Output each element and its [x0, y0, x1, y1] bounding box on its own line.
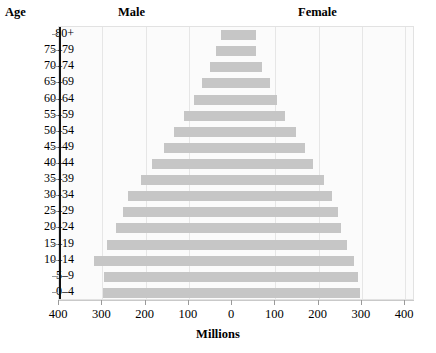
- x-tick-mark: [58, 300, 59, 305]
- age-tick-mark: [52, 50, 58, 51]
- plot-area: [58, 26, 414, 300]
- bar-row: [59, 159, 413, 169]
- female-bar: [232, 191, 332, 201]
- age-tick-mark: [52, 260, 58, 261]
- female-bar: [232, 272, 358, 282]
- bar-row: [59, 191, 413, 201]
- female-bar: [232, 78, 270, 88]
- age-tick-mark: [52, 131, 58, 132]
- male-bar: [194, 95, 232, 105]
- bottom-cutoff-text: [10, 345, 430, 353]
- age-tick-mark: [52, 163, 58, 164]
- age-tick-mark: [52, 115, 58, 116]
- population-pyramid-chart: Age Male Female 80+75–7970–7465–6960–645…: [0, 0, 436, 353]
- age-tick-mark: [52, 147, 58, 148]
- x-axis-title: Millions: [0, 327, 436, 342]
- bar-row: [59, 30, 413, 40]
- x-tick-mark: [361, 300, 362, 305]
- male-bar: [184, 111, 232, 121]
- male-section-header: Male: [118, 5, 145, 20]
- bar-row: [59, 256, 413, 266]
- age-tick-mark: [52, 179, 58, 180]
- female-bar: [232, 62, 262, 72]
- female-bar: [232, 288, 360, 298]
- bar-row: [59, 95, 413, 105]
- bar-row: [59, 78, 413, 88]
- age-tick-mark: [52, 276, 58, 277]
- bar-row: [59, 288, 413, 298]
- female-bar: [232, 111, 285, 121]
- female-bar: [232, 159, 313, 169]
- bar-row: [59, 111, 413, 121]
- male-bar: [152, 159, 232, 169]
- age-tick-mark: [52, 99, 58, 100]
- bar-row: [59, 175, 413, 185]
- age-tick-mark: [52, 82, 58, 83]
- male-bar: [202, 78, 232, 88]
- female-bar: [232, 207, 338, 217]
- bar-row: [59, 127, 413, 137]
- age-tick-mark: [52, 227, 58, 228]
- female-bar: [232, 240, 347, 250]
- female-bar: [232, 95, 277, 105]
- bar-row: [59, 223, 413, 233]
- bar-row: [59, 240, 413, 250]
- male-bar: [107, 240, 232, 250]
- male-bar: [216, 46, 232, 56]
- female-bar: [232, 30, 256, 40]
- female-bar: [232, 46, 256, 56]
- male-bar: [128, 191, 232, 201]
- x-tick-label: 400: [374, 307, 434, 322]
- age-tick-mark: [52, 34, 58, 35]
- bar-row: [59, 143, 413, 153]
- male-bar: [123, 207, 232, 217]
- female-section-header: Female: [298, 5, 337, 20]
- male-bar: [164, 143, 232, 153]
- bar-row: [59, 62, 413, 72]
- male-bar: [210, 62, 232, 72]
- age-tick-mark: [52, 211, 58, 212]
- zero-axis-line: [59, 27, 61, 299]
- male-bar: [116, 223, 232, 233]
- bar-row: [59, 272, 413, 282]
- bar-row: [59, 46, 413, 56]
- female-bar: [232, 175, 324, 185]
- male-bar: [174, 127, 232, 137]
- male-bar: [141, 175, 232, 185]
- x-tick-mark: [101, 300, 102, 305]
- age-column-header: Age: [5, 5, 26, 20]
- x-tick-mark: [318, 300, 319, 305]
- age-tick-mark: [52, 292, 58, 293]
- male-bar: [103, 288, 232, 298]
- male-bar: [221, 30, 232, 40]
- male-bar: [94, 256, 232, 266]
- age-tick-mark: [52, 244, 58, 245]
- x-tick-mark: [404, 300, 405, 305]
- age-tick-mark: [52, 66, 58, 67]
- x-tick-mark: [188, 300, 189, 305]
- female-bar: [232, 127, 296, 137]
- male-bar: [104, 272, 232, 282]
- bar-row: [59, 207, 413, 217]
- female-bar: [232, 143, 305, 153]
- female-bar: [232, 223, 341, 233]
- x-tick-mark: [145, 300, 146, 305]
- female-bar: [232, 256, 354, 266]
- age-tick-mark: [52, 195, 58, 196]
- x-tick-mark: [274, 300, 275, 305]
- x-tick-mark: [231, 300, 232, 305]
